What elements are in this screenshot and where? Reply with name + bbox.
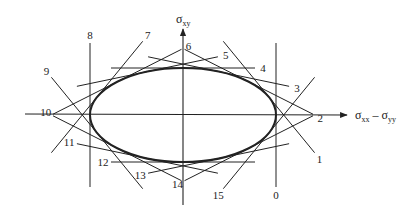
tangent-label-7: 7 bbox=[145, 29, 151, 41]
tangent-label-8: 8 bbox=[87, 29, 93, 41]
tangent-label-6: 6 bbox=[186, 40, 192, 52]
tangent-label-4: 4 bbox=[260, 62, 266, 74]
tangent-label-9: 9 bbox=[44, 65, 50, 77]
tangent-label-10: 10 bbox=[40, 106, 52, 118]
tangent-label-14: 14 bbox=[172, 178, 184, 190]
x-axis bbox=[25, 114, 347, 115]
tangent-label-11: 11 bbox=[64, 136, 75, 148]
tangent-label-12: 12 bbox=[98, 156, 109, 168]
stress-ellipse-diagram: 0123456789101112131415 σxy σxx – σyy bbox=[0, 0, 410, 217]
y-axis-label: σxy bbox=[176, 12, 190, 28]
tangent-label-5: 5 bbox=[223, 49, 229, 61]
tangent-label-1: 1 bbox=[317, 153, 323, 165]
tangent-label-3: 3 bbox=[294, 82, 300, 94]
x-axis-label: σxx – σyy bbox=[355, 108, 396, 124]
tangent-label-13: 13 bbox=[135, 169, 147, 181]
tangent-label-15: 15 bbox=[213, 189, 225, 201]
tangent-label-2: 2 bbox=[317, 112, 323, 124]
tangent-label-0: 0 bbox=[273, 189, 279, 201]
